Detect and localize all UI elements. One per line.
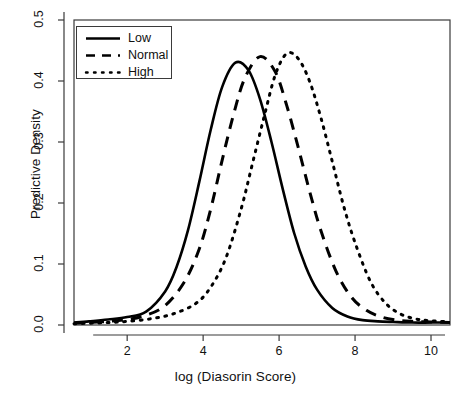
x-tick-label: 6 — [264, 344, 294, 358]
y-tick-label: 0.2 — [32, 185, 46, 219]
x-tick-label: 10 — [416, 344, 446, 358]
legend-label-normal: Normal — [128, 48, 168, 63]
y-tick-label: 0.5 — [32, 2, 46, 36]
y-tick-label: 0.4 — [32, 63, 46, 97]
chart-figure: Predictive Density log (Diasorin Score) … — [0, 0, 471, 406]
plot-background — [0, 0, 471, 406]
legend-label-high: High — [128, 65, 154, 80]
x-tick-label: 8 — [340, 344, 370, 358]
x-axis-title: log (Diasorin Score) — [0, 369, 471, 384]
x-tick-label: 4 — [188, 344, 218, 358]
legend-key-dotted-icon — [84, 64, 122, 81]
y-tick-label: 0.3 — [32, 124, 46, 158]
legend-key-dashed-icon — [84, 47, 122, 64]
legend-label-low: Low — [128, 31, 151, 46]
legend-key-solid-icon — [84, 30, 122, 47]
legend-item-low: Low — [77, 30, 171, 47]
legend-item-normal: Normal — [77, 47, 171, 64]
x-tick-label: 2 — [112, 344, 142, 358]
legend: Low Normal High — [76, 26, 172, 79]
density-plot-canvas — [0, 0, 471, 406]
legend-item-high: High — [77, 64, 171, 81]
y-tick-label: 0.1 — [32, 246, 46, 280]
y-tick-label: 0.0 — [32, 307, 46, 341]
